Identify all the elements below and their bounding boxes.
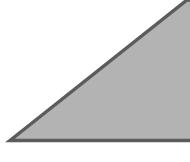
gray-triangle xyxy=(10,0,190,141)
triangle-diagram xyxy=(0,0,190,162)
